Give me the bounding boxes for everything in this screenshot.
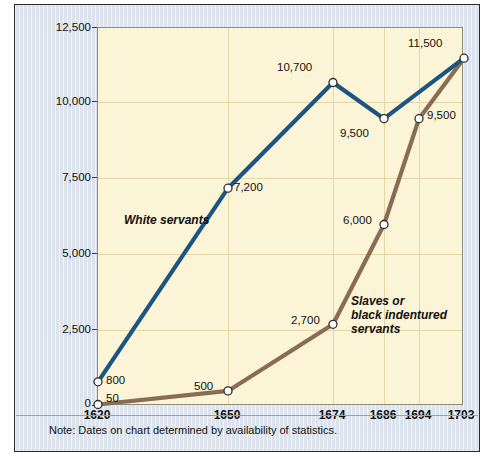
value-label-2700: 2,700: [291, 314, 320, 326]
data-point-slaves-1674: [329, 320, 337, 328]
data-point-white-1650: [224, 184, 232, 192]
value-label-800: 800: [106, 374, 125, 386]
data-point-white-1674: [329, 79, 337, 87]
y-tick-label-2500: 2,500: [21, 323, 91, 335]
y-tick-label-5000: 5,000: [21, 247, 91, 259]
value-label-10700: 10,700: [277, 61, 312, 73]
annotation-slaves-line3: servants: [351, 322, 400, 336]
annotation-white-servants: White servants: [124, 213, 209, 227]
data-point-white-1686: [380, 115, 388, 123]
y-tick-label-10000: 10,000: [21, 95, 91, 107]
value-label-9500-white: 9,500: [340, 127, 369, 139]
value-label-50: 50: [106, 392, 119, 404]
value-label-500: 500: [194, 380, 213, 392]
note-divider: [16, 415, 478, 416]
annotation-slaves-line1: Slaves or: [351, 294, 404, 308]
y-axis-title-container: Number of Persons (Slaves or Indentured …: [33, 27, 55, 405]
chart-panel: Number of Persons (Slaves or Indentured …: [14, 4, 480, 452]
data-point-slaves-1694: [415, 115, 423, 123]
y-tick-label-7500: 7,500: [21, 171, 91, 183]
value-label-7200: 7,200: [234, 181, 263, 193]
data-point-slaves-1686: [380, 221, 388, 229]
value-label-6000: 6,000: [343, 214, 372, 226]
chart-figure: Number of Persons (Slaves or Indentured …: [0, 0, 489, 459]
plot-area: 800 7,200 10,700 9,500 11,500 50 500 2,7…: [97, 27, 463, 405]
data-point-white-1620: [94, 378, 102, 386]
value-label-9500-slaves: 9,500: [427, 109, 456, 121]
value-label-11500: 11,500: [408, 37, 442, 49]
annotation-slaves-line2: black indentured: [351, 308, 447, 322]
data-point-shared-1703: [460, 54, 468, 62]
y-tick-label-12500: 12,500: [21, 21, 91, 33]
data-point-slaves-1650: [224, 387, 232, 395]
slaves-line: [98, 58, 464, 404]
chart-note: Note: Dates on chart determined by avail…: [49, 424, 337, 436]
annotation-slaves: Slaves or black indentured servants: [351, 294, 447, 336]
